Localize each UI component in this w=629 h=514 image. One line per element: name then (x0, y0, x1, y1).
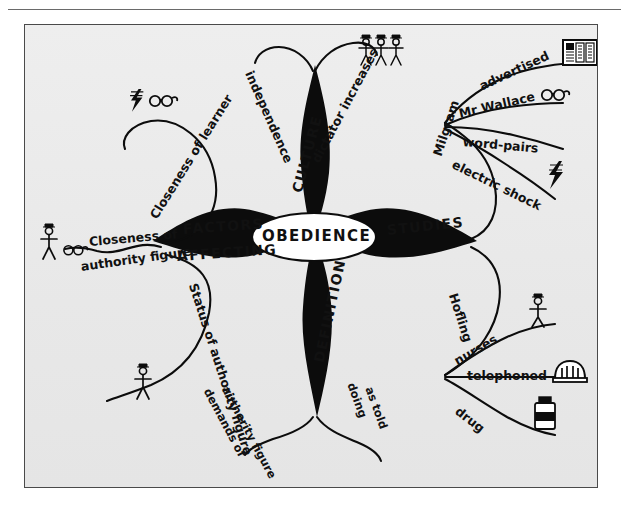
telephone-icon (553, 361, 587, 382)
stick-figure-icon (41, 224, 57, 259)
glasses-icon (542, 90, 569, 100)
top-divider-rule (8, 9, 621, 10)
branch-independence (255, 47, 313, 71)
glasses-icon (150, 96, 177, 106)
central-topic-label: OBEDIENCE (262, 229, 371, 245)
branch-status-of-authority-figure (107, 255, 210, 401)
newspaper-icon (563, 40, 597, 65)
mindmap-frame: OBEDIENCE FACTORS AFFECTING CULTURE STUD… (24, 24, 598, 488)
mindmap-page: OBEDIENCE FACTORS AFFECTING CULTURE STUD… (0, 0, 629, 514)
sublabel-telephoned: telephoned (467, 369, 547, 382)
stick-figure-icon (530, 294, 546, 327)
branch-doing-as-told (317, 417, 381, 461)
glasses-icon (64, 246, 88, 255)
stick-figure-icon (135, 364, 151, 399)
lightning-bolt-icon (130, 89, 143, 112)
pill-bottle-icon (535, 397, 555, 429)
lightning-bolt-icon (549, 161, 563, 189)
